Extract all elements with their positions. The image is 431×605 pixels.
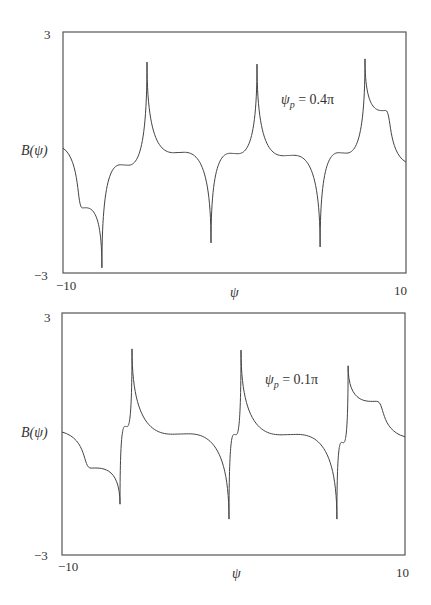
top-curve <box>63 59 406 268</box>
top-xlabel: ψ <box>230 285 239 300</box>
top-panel: 3 −3 −10 10 ψ B(ψ) ψp = 0.4π <box>21 27 407 300</box>
bottom-ytick-max: 3 <box>44 310 51 325</box>
bottom-annotation: ψp = 0.1π <box>265 372 318 390</box>
figure: 3 −3 −10 10 ψ B(ψ) ψp = 0.4π 3 −3 −10 10… <box>0 0 431 605</box>
top-ylabel: B(ψ) <box>21 143 48 159</box>
bottom-xtick-max: 10 <box>396 565 409 580</box>
bottom-ylabel: B(ψ) <box>21 425 48 441</box>
bottom-panel: 3 −3 −10 10 ψ B(ψ) ψp = 0.1π <box>21 310 409 581</box>
top-ytick-min: −3 <box>34 268 48 283</box>
top-xtick-max: 10 <box>394 283 407 298</box>
top-xtick-min: −10 <box>56 278 76 293</box>
bottom-plot-frame <box>62 313 405 555</box>
top-annotation: ψp = 0.4π <box>281 92 334 110</box>
bottom-xtick-min: −10 <box>58 559 78 574</box>
top-ytick-max: 3 <box>44 27 51 42</box>
bottom-xlabel: ψ <box>232 566 241 581</box>
bottom-ytick-min: −3 <box>34 548 48 563</box>
top-plot-frame <box>63 32 406 273</box>
bottom-curve <box>62 349 405 519</box>
